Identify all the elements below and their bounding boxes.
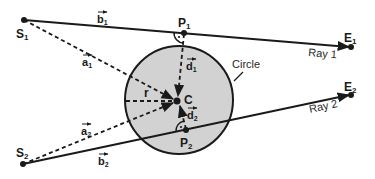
- label-s2: S2: [16, 146, 29, 161]
- point-s1: [21, 17, 27, 23]
- circle-leader-line: [234, 72, 243, 81]
- label-e2: E2: [344, 80, 357, 95]
- label-s1: S1: [16, 27, 29, 42]
- point-p2: [183, 127, 189, 133]
- svg-text:b2: b2: [98, 155, 109, 168]
- label-r: r: [144, 86, 149, 100]
- label-c: C: [184, 93, 193, 107]
- vector-label-a2: a2: [81, 124, 91, 138]
- svg-text:a1: a1: [82, 56, 92, 69]
- label-p1: P1: [178, 16, 191, 31]
- vector-label-b1: b1: [97, 12, 108, 26]
- right-angle-dot-p1: [178, 36, 180, 38]
- point-c: [174, 98, 181, 105]
- vector-label-a1: a1: [82, 55, 92, 69]
- ray-circle-diagram: Circle S1 P1 E1 S2 P2 E2 C r Ray 1 Ray 2…: [0, 0, 375, 179]
- svg-text:a2: a2: [81, 125, 91, 138]
- label-e1: E1: [344, 31, 357, 46]
- label-ray-2: Ray 2: [308, 97, 339, 115]
- circle-label: Circle: [232, 58, 260, 70]
- right-angle-dot-p2: [180, 126, 182, 128]
- vector-label-b2: b2: [98, 154, 109, 168]
- svg-text:b1: b1: [97, 13, 108, 26]
- label-ray-1: Ray 1: [308, 46, 338, 60]
- point-s2: [20, 161, 26, 167]
